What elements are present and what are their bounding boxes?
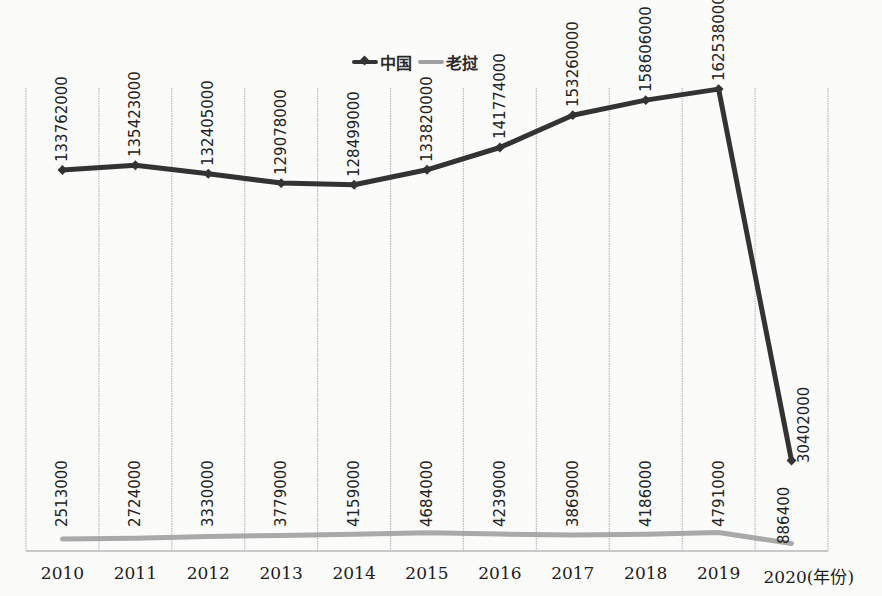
x-tick-label: 2020(年份) (764, 563, 874, 588)
x-tick-label: 2012 (178, 563, 238, 583)
data-label-laos: 4186000 (637, 460, 655, 527)
data-label-laos: 2724000 (126, 460, 144, 527)
x-tick-label: 2011 (105, 563, 165, 583)
chart-legend: 中国 老挝 (352, 50, 480, 74)
data-label-china: 135423000 (126, 71, 144, 157)
x-tick-label: 2010 (32, 563, 92, 583)
data-label-laos: 4684000 (418, 460, 436, 527)
data-label-laos: 4159000 (345, 460, 363, 527)
legend-item-laos: 老挝 (414, 50, 480, 74)
legend-label-china: 中国 (380, 50, 412, 74)
legend-item-china: 中国 (352, 50, 414, 74)
x-tick-label: 2017 (543, 563, 603, 583)
data-label-china: 30402000 (795, 386, 813, 462)
data-label-china: 162538000 (710, 0, 728, 81)
data-label-laos: 4791000 (710, 460, 728, 527)
data-label-laos: 3869000 (564, 460, 582, 527)
x-tick-label: 2019 (689, 563, 749, 583)
x-tick-label: 2015 (397, 563, 457, 583)
data-label-laos: 886400 (775, 487, 793, 544)
data-point-marker-icon (641, 95, 651, 105)
data-label-china: 133762000 (53, 76, 71, 162)
data-point-marker-icon (203, 169, 213, 179)
data-label-laos: 2513000 (53, 460, 71, 527)
data-point-marker-icon (349, 180, 359, 190)
data-label-laos: 3779000 (272, 460, 290, 527)
data-label-china: 133820000 (418, 76, 436, 162)
data-label-china: 153260000 (564, 21, 582, 107)
data-label-china: 141774000 (491, 54, 509, 140)
data-label-laos: 3330000 (199, 460, 217, 527)
data-point-marker-icon (276, 178, 286, 188)
x-tick-label: 2014 (324, 563, 384, 583)
data-point-marker-icon (130, 160, 140, 170)
legend-line-marker-icon (352, 60, 378, 64)
legend-label-laos: 老挝 (446, 50, 478, 74)
data-label-china: 129078000 (272, 89, 290, 175)
x-tick-label: 2016 (470, 563, 530, 583)
data-label-china: 158606000 (637, 6, 655, 92)
data-point-marker-icon (714, 84, 724, 94)
x-tick-label: 2018 (616, 563, 676, 583)
data-label-china: 128499000 (345, 91, 363, 177)
data-label-china: 132405000 (199, 80, 217, 166)
x-tick-label: 2013 (251, 563, 311, 583)
data-label-laos: 4239000 (491, 460, 509, 527)
legend-line-icon (418, 60, 444, 64)
data-point-marker-icon (58, 165, 68, 175)
